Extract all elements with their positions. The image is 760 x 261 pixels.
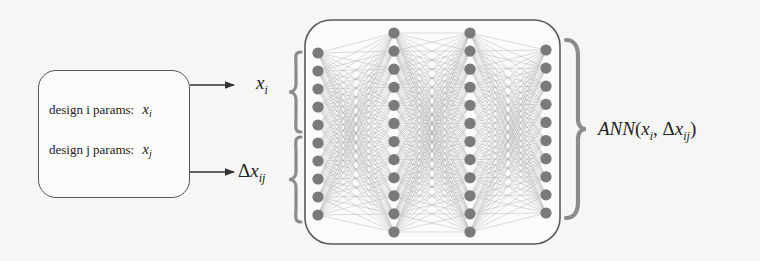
design-i-subscript: i [149, 108, 152, 119]
network-node [464, 226, 475, 237]
delta-symbol: Δ [238, 160, 250, 181]
network-node [388, 45, 399, 56]
network-node [540, 207, 551, 218]
network-node [388, 154, 399, 165]
network-node [388, 226, 399, 237]
network-node [388, 190, 399, 201]
network-node [388, 118, 399, 129]
arg2-symbol: x [675, 118, 683, 139]
network-node [540, 171, 551, 182]
network-node [464, 82, 475, 93]
ann-output-label: ANN(xi, Δxij) [598, 118, 696, 144]
network-node [388, 208, 399, 219]
design-j-label: design j params: [49, 142, 134, 157]
network-node [464, 154, 475, 165]
network-node [312, 101, 323, 112]
network-node [464, 172, 475, 183]
arg2-delta: Δ [663, 118, 675, 139]
network-node [312, 83, 323, 94]
arg2-subscript: ij [683, 129, 690, 143]
network-node [312, 65, 323, 76]
xi-subscript: i [264, 83, 267, 97]
network-node [464, 208, 475, 219]
network-node [312, 191, 323, 202]
left-brace-xi [289, 52, 301, 132]
design-j-symbol: x [142, 141, 149, 157]
network-node [312, 47, 323, 58]
diagram-canvas: design i params:xi design j params:xj xi… [0, 0, 760, 261]
dx-subscript: ij [259, 171, 266, 185]
arg1-symbol: x [641, 118, 649, 139]
design-i-label: design i params: [49, 102, 134, 117]
network-node [388, 64, 399, 75]
network-node [540, 81, 551, 92]
network-node [540, 135, 551, 146]
network-node [388, 172, 399, 183]
delta-xij-input-label: Δxij [238, 160, 265, 186]
design-i-symbol: x [142, 101, 149, 117]
network-node [388, 27, 399, 38]
network-node [388, 100, 399, 111]
xi-input-label: xi [256, 72, 268, 98]
network-node [464, 27, 475, 38]
close-paren: ) [690, 118, 696, 139]
network-node [312, 137, 323, 148]
input-params-box: design i params:xi design j params:xj [38, 70, 190, 198]
network-node [312, 173, 323, 184]
network-node [540, 63, 551, 74]
network-node [540, 189, 551, 200]
network-node [312, 119, 323, 130]
network-node [464, 100, 475, 111]
dx-symbol: x [250, 160, 258, 181]
network-node [540, 44, 551, 55]
network-node [540, 153, 551, 164]
network-node [464, 136, 475, 147]
design-i-params-row: design i params:xi [49, 101, 152, 119]
network-node [312, 209, 323, 220]
left-brace-delta-xij [289, 137, 301, 222]
network-node [312, 155, 323, 166]
network-node [388, 82, 399, 93]
comma: , [653, 118, 663, 139]
right-brace-output [566, 40, 586, 218]
ann-func: ANN [598, 118, 635, 139]
network-node [388, 136, 399, 147]
network-node [464, 45, 475, 56]
design-j-subscript: j [149, 148, 152, 159]
network-node [540, 117, 551, 128]
network-node [464, 64, 475, 75]
network-node [540, 99, 551, 110]
network-node [464, 118, 475, 129]
design-j-params-row: design j params:xj [49, 141, 152, 159]
network-node [464, 190, 475, 201]
